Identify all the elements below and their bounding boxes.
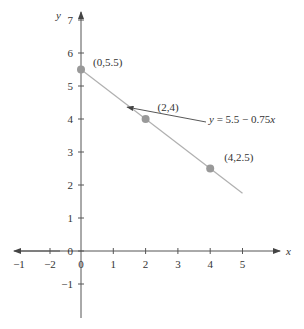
y-axis-label: y (55, 9, 61, 21)
data-point (206, 165, 214, 173)
ticks: 012345−1−2−101234567 (13, 14, 246, 290)
y-tick-label: −1 (61, 278, 73, 290)
y-tick-label: 2 (68, 179, 74, 191)
y-tick-label: 3 (68, 146, 74, 158)
regression-line (81, 70, 243, 194)
chart-svg: xy 012345−1−2−101234567 (0,5.5)(2,4)(4,2… (0, 0, 304, 329)
y-tick-label: 0 (68, 245, 74, 257)
y-tick-label: 1 (68, 212, 74, 224)
x-tick-label: 1 (111, 258, 117, 270)
x-tick-label: −2 (44, 258, 56, 270)
x-tick-label: 5 (240, 258, 246, 270)
data-series (81, 70, 243, 194)
data-point (142, 115, 150, 123)
x-axis-label: x (285, 245, 291, 257)
x-tick-label: −1 (13, 258, 25, 270)
y-tick-label: 6 (68, 47, 74, 59)
point-label: (2,4) (158, 101, 179, 114)
point-label: (4,2.5) (224, 151, 254, 164)
x-tick-label: 3 (175, 258, 181, 270)
equation-label: y = 5.5 − 0.75x (208, 113, 275, 125)
axes: xy (14, 9, 291, 318)
data-point (77, 66, 85, 74)
x-tick-label: 4 (207, 258, 213, 270)
chart: xy 012345−1−2−101234567 (0,5.5)(2,4)(4,2… (0, 0, 304, 329)
point-label: (0,5.5) (93, 56, 123, 69)
y-tick-label: 5 (68, 80, 74, 92)
x-tick-label: 0 (78, 258, 84, 270)
y-tick-label: 4 (68, 113, 74, 125)
x-tick-label: 2 (143, 258, 149, 270)
y-tick-label: 7 (68, 14, 74, 26)
